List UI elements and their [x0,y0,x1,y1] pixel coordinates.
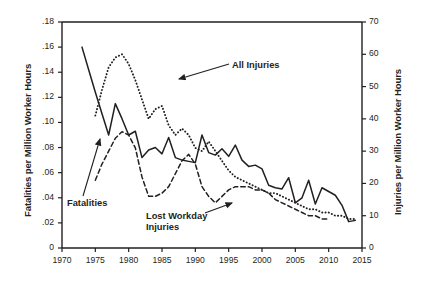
annotation-fatalities: Fatalities [67,198,107,209]
x-tick-label: 2015 [345,255,379,265]
y-tick-label-left: .10 [28,116,54,126]
y-tick-label-right: 0 [369,242,395,252]
x-tick-label: 1995 [212,255,246,265]
series-line-fatalities [82,47,355,222]
x-tick-label: 2005 [278,255,312,265]
y-tick-label-left: .04 [28,192,54,202]
x-tick-label: 1985 [145,255,179,265]
y-tick-label-left: 0 [28,242,54,252]
annotation-all-injuries: All Injuries [232,60,280,71]
y-tick-label-left: .06 [28,167,54,177]
y-tick-label-right: 70 [369,16,395,26]
chart-figure: Fatalities per Million Worker Hours Inju… [0,0,422,283]
annotation-lost-workday-injuries: Lost Workday Injuries [146,211,207,233]
x-tick-label: 1990 [178,255,212,265]
series-line-all-injuries [95,54,355,219]
y-tick-label-right: 60 [369,48,395,58]
leader-lost-workday-injuries [205,203,232,213]
leader-all-injuries [179,64,229,79]
y-tick-label-right: 50 [369,81,395,91]
x-tick-label: 2010 [312,255,346,265]
annotation-lost-workday-line1: Lost Workday [146,211,207,222]
y-tick-label-left: .12 [28,91,54,101]
leader-fatalities [83,139,100,196]
x-tick-label: 1970 [45,255,79,265]
y-tick-label-right: 40 [369,113,395,123]
y-tick-label-left: .16 [28,41,54,51]
plot-canvas [0,0,422,283]
y-tick-label-left: .14 [28,66,54,76]
y-tick-label-left: .08 [28,142,54,152]
y-tick-label-right: 30 [369,145,395,155]
y-tick-label-left: .18 [28,16,54,26]
annotation-lost-workday-line2: Injuries [146,222,207,233]
y-tick-label-right: 10 [369,210,395,220]
y-tick-label-right: 20 [369,177,395,187]
x-tick-label: 2000 [245,255,279,265]
x-tick-label: 1975 [78,255,112,265]
y-tick-label-left: .02 [28,217,54,227]
x-tick-label: 1980 [112,255,146,265]
